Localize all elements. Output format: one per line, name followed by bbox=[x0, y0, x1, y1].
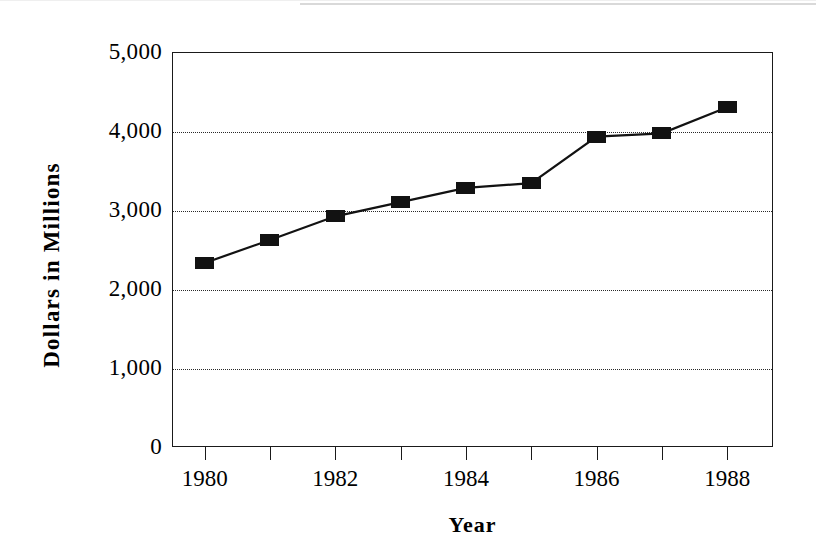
x-tick-1982 bbox=[335, 447, 336, 460]
data-point-1985 bbox=[522, 177, 541, 189]
x-tick-label-1986: 1986 bbox=[537, 466, 657, 491]
x-tick-1988 bbox=[727, 447, 728, 460]
x-tick-1983 bbox=[401, 447, 402, 460]
data-point-1984 bbox=[456, 182, 475, 194]
x-axis-title: Year bbox=[172, 512, 773, 538]
data-point-1986 bbox=[587, 131, 606, 143]
data-point-1981 bbox=[260, 234, 279, 246]
gridline-4000 bbox=[173, 132, 772, 133]
y-tick-label-4000: 4,000 bbox=[12, 119, 162, 142]
x-tick-1984 bbox=[466, 447, 467, 460]
y-tick-label-5000: 5,000 bbox=[12, 40, 162, 63]
y-tick-label-2000: 2,000 bbox=[12, 277, 162, 300]
x-tick-1980 bbox=[205, 447, 206, 460]
gridline-1000 bbox=[173, 369, 772, 370]
y-tick-label-3000: 3,000 bbox=[12, 198, 162, 221]
y-tick-label-1000: 1,000 bbox=[12, 356, 162, 379]
data-point-1988 bbox=[718, 101, 737, 113]
x-tick-1985 bbox=[531, 447, 532, 460]
x-tick-label-1984: 1984 bbox=[406, 466, 526, 491]
y-axis-tick-labels: 01,0002,0003,0004,0005,000 bbox=[0, 0, 162, 557]
x-tick-label-1980: 1980 bbox=[145, 466, 265, 491]
scan-artifact-streak bbox=[300, 3, 816, 5]
x-tick-1981 bbox=[270, 447, 271, 460]
data-point-1982 bbox=[326, 210, 345, 222]
x-tick-label-1988: 1988 bbox=[667, 466, 787, 491]
chart-figure: Dollars in Millions 01,0002,0003,0004,00… bbox=[0, 0, 816, 557]
gridline-3000 bbox=[173, 211, 772, 212]
gridline-2000 bbox=[173, 290, 772, 291]
plot-area bbox=[172, 52, 773, 447]
data-point-1980 bbox=[195, 257, 214, 269]
x-tick-1987 bbox=[662, 447, 663, 460]
data-point-1987 bbox=[652, 127, 671, 139]
y-tick-label-0: 0 bbox=[12, 435, 162, 458]
data-point-1983 bbox=[391, 196, 410, 208]
x-tick-label-1982: 1982 bbox=[275, 466, 395, 491]
x-tick-1986 bbox=[597, 447, 598, 460]
